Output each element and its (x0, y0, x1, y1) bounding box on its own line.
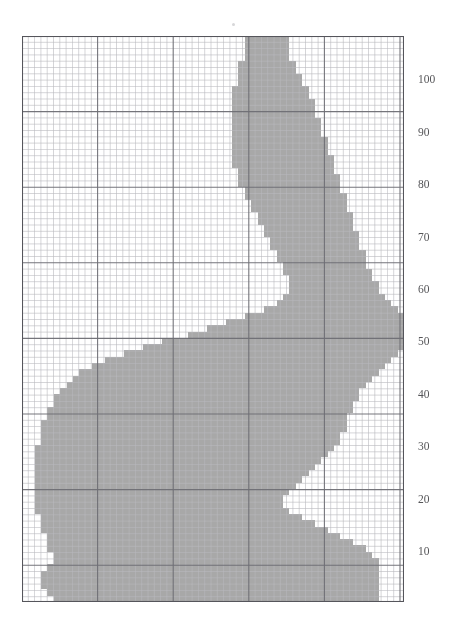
y-tick-60: 60 (404, 281, 430, 295)
y-tick-10: 10 (404, 543, 430, 557)
tick-dash (404, 550, 413, 551)
y-tick-label: 90 (418, 125, 430, 139)
tick-dash (404, 393, 413, 394)
y-tick-90: 90 (404, 123, 430, 137)
tick-dash (404, 341, 413, 342)
raster-silhouette-layer (22, 36, 404, 602)
top-speck-mark (232, 23, 235, 26)
y-tick-label: 10 (418, 544, 430, 558)
tick-dash (404, 498, 413, 499)
y-tick-40: 40 (404, 385, 430, 399)
tick-dash (404, 288, 413, 289)
tick-dash (404, 446, 413, 447)
plot-area (22, 36, 404, 602)
y-tick-label: 100 (418, 72, 435, 86)
pixelated-shape-canvas (22, 36, 404, 602)
tick-dash (404, 79, 413, 80)
y-tick-70: 70 (404, 228, 430, 242)
y-tick-label: 30 (418, 439, 430, 453)
y-axis-tick-labels: 100908070605040302010 (404, 36, 473, 602)
tick-dash (404, 184, 413, 185)
y-tick-20: 20 (404, 490, 430, 504)
y-tick-80: 80 (404, 176, 430, 190)
figure-container: 100908070605040302010 (0, 0, 473, 640)
y-tick-label: 20 (418, 492, 430, 506)
y-tick-label: 70 (418, 230, 430, 244)
tick-dash (404, 131, 413, 132)
y-tick-label: 80 (418, 177, 430, 191)
y-tick-label: 40 (418, 387, 430, 401)
y-tick-label: 60 (418, 282, 430, 296)
y-tick-label: 50 (418, 334, 430, 348)
y-tick-100: 100 (404, 71, 435, 85)
tick-dash (404, 236, 413, 237)
y-tick-30: 30 (404, 438, 430, 452)
y-tick-50: 50 (404, 333, 430, 347)
